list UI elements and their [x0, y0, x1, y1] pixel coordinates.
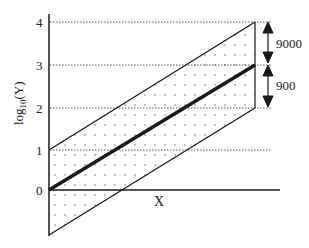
lower-interval-label: 900 — [276, 78, 296, 93]
arrow-down-icon — [263, 52, 273, 63]
y-tick-2: 2 — [36, 101, 43, 116]
y-axis-label: log10(Y) — [11, 81, 28, 125]
y-tick-1: 1 — [36, 143, 43, 158]
log-band-diagram: 4 3 2 1 0 9000 900 X log10(Y) — [0, 0, 309, 248]
arrow-up-icon — [263, 65, 273, 76]
upper-interval-label: 9000 — [276, 36, 302, 51]
x-axis-label: X — [154, 194, 164, 209]
svg-text:log10(Y): log10(Y) — [11, 81, 28, 125]
y-tick-0: 0 — [36, 183, 43, 198]
y-tick-4: 4 — [36, 15, 43, 30]
arrow-down-icon — [263, 96, 273, 107]
arrow-up-icon — [263, 22, 273, 33]
y-tick-3: 3 — [36, 58, 43, 73]
